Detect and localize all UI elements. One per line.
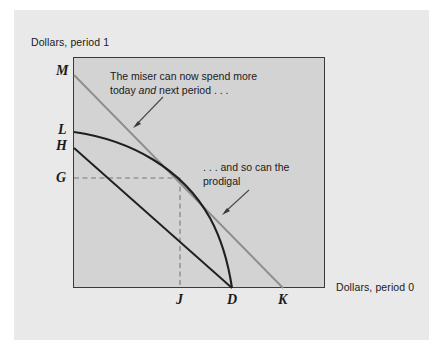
annotation-prodigal-line2: prodigal (203, 175, 289, 189)
annotation-prodigal-line1: . . . and so can the (203, 161, 289, 175)
annotation-miser-line1: The miser can now spend more (110, 70, 257, 84)
point-label-d: D (227, 292, 237, 308)
miser-arrow (133, 97, 163, 128)
annotation-miser: The miser can now spend more today and n… (110, 70, 257, 97)
point-label-g: G (56, 170, 66, 186)
x-axis-title: Dollars, period 0 (336, 281, 414, 293)
annotation-miser-line2: today and next period . . . (110, 84, 257, 98)
annotation-miser-line2-b: next period . . . (156, 84, 228, 96)
point-label-j: J (176, 292, 183, 308)
annotation-miser-line2-italic: and (139, 84, 157, 96)
annotation-prodigal: . . . and so can the prodigal (203, 161, 289, 188)
prodigal-arrow (222, 190, 249, 215)
point-label-h: H (56, 138, 67, 154)
point-label-m: M (56, 63, 68, 79)
point-label-k: K (278, 292, 287, 308)
y-axis-title: Dollars, period 1 (31, 36, 109, 48)
figure-root: Dollars, period 1 Dollars, period 0 M L … (0, 0, 443, 350)
point-label-l: L (58, 122, 67, 138)
annotation-miser-line2-a: today (110, 84, 139, 96)
